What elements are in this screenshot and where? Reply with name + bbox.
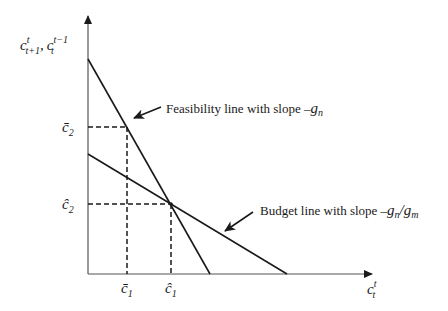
tick-label-chat2: ĉ2 — [62, 196, 74, 215]
y-axis-label: ctt+1,ct−1t — [20, 34, 68, 56]
tick-label-cbar1: c̄1 — [121, 280, 133, 299]
feasibility-label: Feasibility line with slope –gn — [166, 100, 323, 118]
feasibility-arrow — [134, 107, 161, 118]
budget-arrow — [225, 212, 253, 231]
feasibility-line — [88, 59, 210, 274]
tick-label-cbar2: c̄2 — [62, 119, 74, 138]
budget-line — [88, 154, 287, 274]
budget-label: Budget line with slope –gn/gm — [260, 202, 419, 220]
tick-label-chat1: ĉ1 — [165, 280, 177, 299]
intersection-point — [169, 202, 173, 206]
diagram: ctt+1,ct−1t ctt c̄2 ĉ2 c̄1 ĉ1 Feasibilit… — [0, 0, 448, 311]
x-axis-label: ctt — [367, 278, 377, 300]
